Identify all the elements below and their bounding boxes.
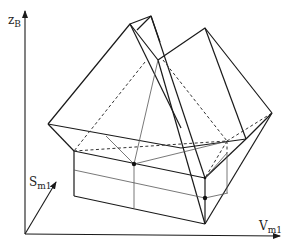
point-marker xyxy=(204,177,207,180)
marked-points xyxy=(132,162,207,200)
axes xyxy=(25,11,280,236)
hidden-edges xyxy=(74,60,272,178)
polyhedron-diagram: zB Sm1 Vm1 xyxy=(0,0,295,249)
solid-edges xyxy=(48,16,272,224)
v-axis-label: Vm1 xyxy=(258,219,282,235)
v-axis xyxy=(25,234,280,236)
point-marker xyxy=(203,196,207,200)
z-axis-label: zB xyxy=(8,13,21,29)
s-axis-label: Sm1 xyxy=(29,175,52,191)
point-marker xyxy=(132,162,136,166)
